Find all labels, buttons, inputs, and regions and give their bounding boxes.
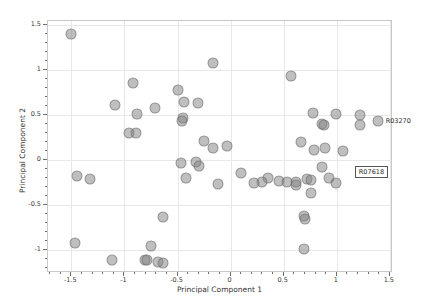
data-point [178,96,189,107]
x-tick-minor [60,272,61,274]
y-tick-minor [45,87,47,88]
data-point [145,241,156,252]
x-tick-label: -1 [120,276,126,284]
data-point [131,128,142,139]
x-tick-label: 1.5 [384,276,394,284]
y-tick-minor [45,186,47,187]
y-tick [43,24,47,25]
y-tick-label: 0.5 [31,110,41,118]
data-point [207,143,218,154]
x-tick-minor [261,272,262,274]
y-tick-minor [45,222,47,223]
x-axis-label: Principal Component 1 [47,285,392,294]
y-tick-minor [45,267,47,268]
y-tick-label: 0 [37,155,41,163]
gridline-vertical [284,21,285,271]
data-point [222,140,233,151]
data-point [172,85,183,96]
x-tick-minor [145,272,146,274]
data-point [69,238,80,249]
point-annotation-label: R07618 [355,166,388,178]
data-point [306,174,317,185]
y-tick-minor [45,105,47,106]
x-tick-label: -0.5 [170,276,183,284]
data-point [141,255,152,266]
x-tick-minor [272,272,273,274]
data-point [338,146,349,157]
data-point [248,178,259,189]
data-point [306,188,317,199]
x-tick-minor [219,272,220,274]
y-tick-minor [45,213,47,214]
data-point [132,109,143,120]
x-tick-minor [187,272,188,274]
plot-area [47,20,392,272]
data-point [66,29,77,40]
data-point [355,120,366,131]
y-tick-minor [45,141,47,142]
data-point [236,167,247,178]
data-point [330,109,341,120]
x-tick-minor [134,272,135,274]
x-tick-minor [368,272,369,274]
gridline-vertical [337,21,338,271]
gridline-horizontal [48,25,391,26]
data-point [207,58,218,69]
y-tick-label: 1.5 [31,20,41,28]
x-tick-minor [346,272,347,274]
x-tick-minor [378,272,379,274]
data-point [295,137,306,148]
x-tick-minor [166,272,167,274]
x-tick-minor [208,272,209,274]
x-tick-minor [81,272,82,274]
x-tick-minor [49,272,50,274]
x-tick-minor [325,272,326,274]
y-tick-minor [45,78,47,79]
data-point [150,102,161,113]
data-point [309,145,320,156]
point-annotation-label: R03270 [386,117,411,125]
x-tick-minor [240,272,241,274]
data-point [212,179,223,190]
y-tick-minor [45,168,47,169]
y-tick [43,159,47,160]
gridline-horizontal [48,70,391,71]
y-tick [43,204,47,205]
y-tick [43,114,47,115]
y-axis-label: Principal Component 2 [18,81,27,221]
gridline-vertical [178,21,179,271]
data-point [316,162,327,173]
y-tick-minor [45,150,47,151]
data-point [127,77,138,88]
data-point [299,214,310,225]
y-tick-minor [45,132,47,133]
y-tick-minor [45,42,47,43]
y-tick [43,249,47,250]
data-point [157,212,168,223]
data-point [175,157,186,168]
x-tick-minor [102,272,103,274]
data-point [157,258,168,269]
y-tick-minor [45,96,47,97]
y-tick-minor [45,258,47,259]
data-point [106,254,117,265]
data-point [319,120,330,131]
y-tick-label: -1 [35,245,41,253]
data-point [192,97,203,108]
scatter-plot-figure: Principal Component 1 Principal Componen… [0,0,435,307]
x-tick-label: 0 [228,276,232,284]
gridline-vertical [71,21,72,271]
y-tick-minor [45,231,47,232]
x-tick-minor [293,272,294,274]
gridline-vertical [124,21,125,271]
x-tick-minor [198,272,199,274]
y-tick-minor [45,123,47,124]
y-tick-minor [45,60,47,61]
x-tick-minor [92,272,93,274]
gridline-horizontal [48,160,391,161]
y-tick-minor [45,240,47,241]
data-point [176,116,187,127]
y-tick-minor [45,195,47,196]
data-point [320,143,331,154]
data-point [308,108,319,119]
